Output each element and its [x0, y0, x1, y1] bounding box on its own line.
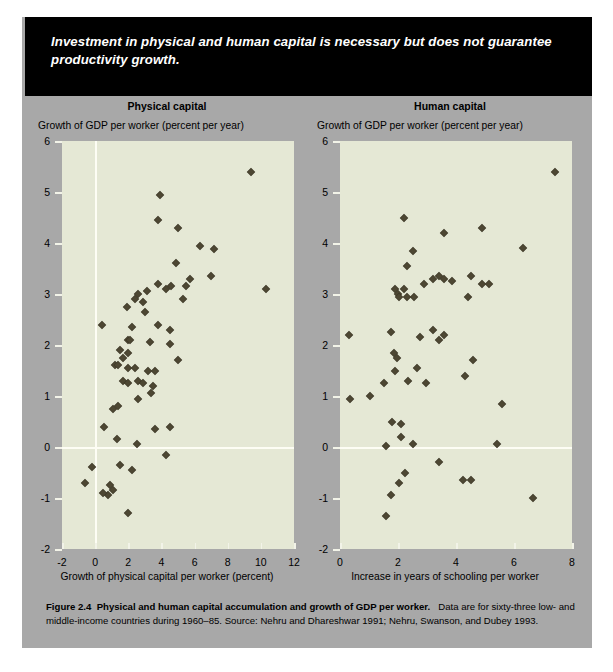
y-axis-tick-label: -2 — [26, 543, 50, 555]
scatter-point — [155, 321, 162, 328]
scatter-point — [380, 380, 387, 387]
scatter-point — [125, 349, 132, 356]
scatter-point — [460, 477, 467, 484]
scatter-point — [345, 331, 352, 338]
scatter-point — [405, 377, 412, 384]
scatter-point — [140, 298, 147, 305]
x-axis-tick-label: 6 — [511, 556, 517, 568]
y-axis-tick-label: 6 — [26, 135, 50, 147]
scatter-point — [486, 280, 493, 287]
x-axis-tick — [195, 543, 197, 549]
x-axis-tick-label: 12 — [288, 556, 300, 568]
scatter-point — [389, 418, 396, 425]
scatter-point — [367, 392, 374, 399]
caption-title: Physical and human capital accumulation … — [97, 601, 431, 612]
scatter-point — [416, 334, 423, 341]
x-axis-tick-label: 8 — [225, 556, 231, 568]
x-axis-tick-label: 2 — [125, 556, 131, 568]
y-axis-tick — [333, 243, 340, 245]
y-axis-tick — [333, 141, 340, 143]
x-axis-tick — [514, 543, 516, 549]
y-axis-tick-label: 0 — [304, 441, 328, 453]
y-axis-tick-label: 1 — [26, 390, 50, 402]
y-axis-tick-label: 5 — [26, 186, 50, 198]
x-axis-tick — [62, 543, 64, 549]
scatter-point — [128, 324, 135, 331]
scatter-point — [183, 283, 190, 290]
x-axis-tick — [95, 543, 97, 549]
scatter-point — [148, 390, 155, 397]
x-axis-title: Growth of physical capital per worker (p… — [22, 571, 312, 582]
y-axis-tick-label: 6 — [304, 135, 328, 147]
y-axis-tick — [55, 192, 62, 194]
x-axis-tick — [572, 543, 574, 549]
scatter-point — [448, 278, 455, 285]
y-axis-tick-label: 4 — [304, 237, 328, 249]
y-axis-tick — [55, 549, 62, 551]
scatter-point — [116, 461, 123, 468]
scatter-point — [410, 293, 417, 300]
scatter-point — [397, 421, 404, 428]
x-axis-tick-label: 2 — [395, 556, 401, 568]
scatter-point — [140, 380, 147, 387]
scatter-point — [151, 367, 158, 374]
chart-title: Physical capital — [22, 100, 312, 112]
scatter-point — [98, 321, 105, 328]
scatter-point — [400, 285, 407, 292]
y-axis-tick-label: 3 — [26, 288, 50, 300]
zero-line-vertical — [95, 141, 97, 549]
scatter-point — [174, 357, 181, 364]
x-axis-tick — [294, 543, 296, 549]
scatter-point — [383, 512, 390, 519]
scatter-point — [409, 247, 416, 254]
scatter-point — [196, 242, 203, 249]
scatter-point — [441, 275, 448, 282]
x-axis-tick — [228, 543, 230, 549]
x-axis-tick — [340, 543, 342, 549]
scatter-point — [247, 168, 254, 175]
x-axis-tick-label: 8 — [569, 556, 575, 568]
figure-caption: Figure 2.4 Physical and human capital ac… — [46, 600, 576, 627]
x-axis-tick-label: 10 — [255, 556, 267, 568]
scatter-point — [179, 296, 186, 303]
x-axis-tick-label: 6 — [192, 556, 198, 568]
x-axis-tick — [128, 543, 130, 549]
scatter-point — [135, 395, 142, 402]
y-axis-tick — [55, 141, 62, 143]
x-axis-tick — [456, 543, 458, 549]
y-axis-tick — [333, 498, 340, 500]
scatter-point — [435, 336, 442, 343]
scatter-point — [208, 273, 215, 280]
scatter-point — [128, 466, 135, 473]
x-axis-tick-label: 4 — [453, 556, 459, 568]
y-axis-tick — [55, 447, 62, 449]
scatter-point — [396, 479, 403, 486]
y-axis-tick — [333, 396, 340, 398]
scatter-point — [519, 245, 526, 252]
scatter-point — [441, 331, 448, 338]
scatter-point — [403, 262, 410, 269]
scatter-point — [392, 367, 399, 374]
headline-banner: Investment in physical and human capital… — [25, 17, 592, 96]
y-axis-tick — [333, 447, 340, 449]
y-axis-tick — [333, 294, 340, 296]
scatter-point — [141, 308, 148, 315]
scatter-point — [435, 459, 442, 466]
y-axis-tick-label: 3 — [304, 288, 328, 300]
y-axis-tick-label: 4 — [26, 237, 50, 249]
chart-title: Human capital — [305, 100, 595, 112]
scatter-point — [82, 479, 89, 486]
scatter-point — [551, 168, 558, 175]
scatter-point — [116, 347, 123, 354]
y-axis-tick-label: -1 — [304, 492, 328, 504]
scatter-point — [396, 293, 403, 300]
x-axis-tick — [161, 543, 163, 549]
figure-page: Investment in physical and human capital… — [0, 0, 613, 672]
plot-area — [62, 141, 294, 549]
scatter-point — [429, 326, 436, 333]
scatter-point — [174, 224, 181, 231]
x-axis-tick-label: 0 — [337, 556, 343, 568]
scatter-point — [125, 510, 132, 517]
scatter-point — [422, 380, 429, 387]
y-axis-tick-label: 2 — [26, 339, 50, 351]
